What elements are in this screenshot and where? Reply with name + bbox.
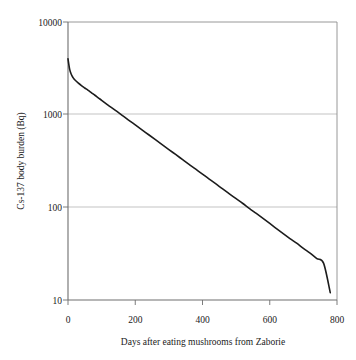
chart-container: 10000 1000 100 10 0 200 400 600 800 Days… xyxy=(0,0,356,360)
y-tick-marks xyxy=(63,22,68,300)
y-axis-title: Cs-137 body burden (Bq) xyxy=(16,112,27,209)
y-tick-label-1000: 1000 xyxy=(43,110,62,120)
x-tick-label-200: 200 xyxy=(128,315,143,325)
x-tick-marks xyxy=(68,300,337,305)
x-tick-label-800: 800 xyxy=(330,315,345,325)
x-tick-label-400: 400 xyxy=(195,315,210,325)
x-tick-label-0: 0 xyxy=(66,315,71,325)
y-tick-label-10: 10 xyxy=(53,296,63,306)
y-tick-label-10000: 10000 xyxy=(38,18,62,28)
log-decay-chart: 10000 1000 100 10 0 200 400 600 800 Days… xyxy=(0,0,356,360)
y-tick-label-100: 100 xyxy=(48,203,63,213)
plot-area-background xyxy=(68,22,337,300)
x-axis-title: Days after eating mushrooms from Zaborie xyxy=(121,337,285,347)
x-tick-label-600: 600 xyxy=(263,315,278,325)
